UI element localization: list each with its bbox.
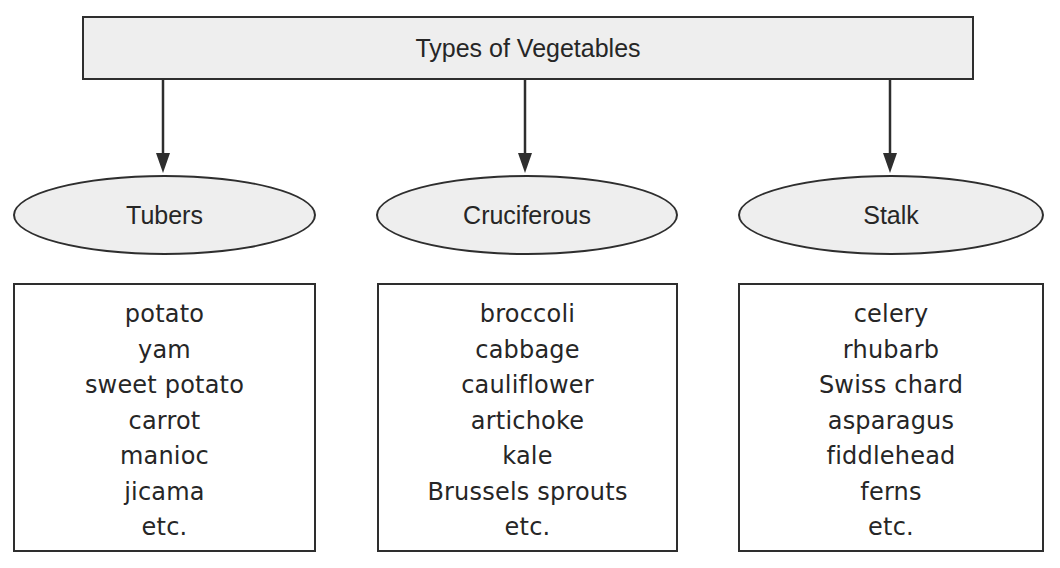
concept-map: Types of Vegetables Tubers Cruciferous S… — [0, 0, 1060, 568]
list-item: etc. — [868, 510, 914, 546]
arrowhead-icon — [156, 153, 170, 173]
list-item: manioc — [120, 439, 209, 475]
list-item: etc. — [505, 510, 551, 546]
list-item: broccoli — [480, 297, 575, 333]
arrowhead-icon — [883, 153, 897, 173]
list-item: artichoke — [471, 404, 584, 440]
examples-box-cruciferous: broccoli cabbage cauliflower artichoke k… — [377, 283, 678, 552]
category-label: Tubers — [126, 201, 203, 230]
list-item: fiddlehead — [827, 439, 956, 475]
list-item: asparagus — [828, 404, 954, 440]
list-item: jicama — [124, 475, 205, 511]
arrow-to-cruciferous — [518, 79, 532, 173]
list-item: ferns — [860, 475, 921, 511]
arrow-to-stalk — [883, 79, 897, 173]
list-item: yam — [138, 333, 191, 369]
list-item: rhubarb — [843, 333, 939, 369]
arrow-to-tubers — [156, 79, 170, 173]
list-item: Swiss chard — [819, 368, 963, 404]
list-item: Brussels sprouts — [427, 475, 627, 511]
list-item: carrot — [129, 404, 201, 440]
category-node-tubers: Tubers — [13, 175, 316, 255]
list-item: etc. — [142, 510, 188, 546]
arrowhead-icon — [518, 153, 532, 173]
list-item: kale — [502, 439, 552, 475]
category-node-cruciferous: Cruciferous — [376, 175, 678, 255]
category-node-stalk: Stalk — [738, 175, 1044, 255]
category-label: Cruciferous — [463, 201, 591, 230]
examples-box-tubers: potato yam sweet potato carrot manioc ji… — [13, 283, 316, 552]
category-label: Stalk — [863, 201, 919, 230]
examples-box-stalk: celery rhubarb Swiss chard asparagus fid… — [738, 283, 1044, 552]
list-item: sweet potato — [85, 368, 244, 404]
list-item: cabbage — [475, 333, 579, 369]
list-item: cauliflower — [461, 368, 594, 404]
list-item: potato — [125, 297, 204, 333]
list-item: celery — [854, 297, 929, 333]
